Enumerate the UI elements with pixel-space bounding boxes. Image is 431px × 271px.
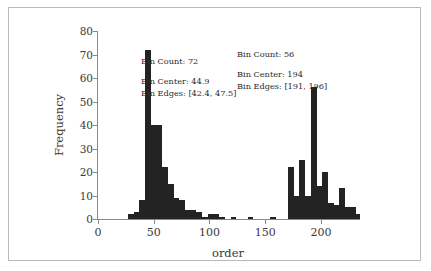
annotation-left-spacer	[141, 68, 236, 76]
x-tick-label: 100	[199, 226, 220, 239]
y-tick-label: 20	[80, 166, 93, 178]
histogram-bar	[356, 214, 360, 219]
y-tick-label: 30	[80, 143, 93, 155]
x-tick-label: 200	[310, 226, 331, 239]
x-tick-label: 50	[147, 226, 161, 239]
x-tick-label: 0	[95, 226, 102, 239]
figure-border: Frequency order 01020304050607080 050100…	[8, 7, 421, 261]
histogram-bar	[248, 217, 254, 219]
plot-wrapper: Frequency order 01020304050607080 050100…	[9, 8, 422, 262]
y-tick-mark	[93, 125, 98, 126]
y-tick-mark	[93, 149, 98, 150]
x-tick-mark	[154, 219, 155, 224]
y-tick-mark	[93, 31, 98, 32]
annotation-right: Bin Count: 56 Bin Center: 194 Bin Edges:…	[237, 49, 327, 93]
x-tick-label: 150	[255, 226, 276, 239]
x-tick-mark	[98, 219, 99, 224]
annotation-right-count: Bin Count: 56	[237, 49, 294, 59]
y-tick-label: 40	[80, 119, 93, 131]
histogram-bar	[305, 196, 311, 220]
y-tick-label: 70	[80, 49, 93, 61]
y-tick-label: 50	[80, 96, 93, 108]
annotation-left-count: Bin Count: 72	[141, 56, 198, 66]
y-tick-mark	[93, 78, 98, 79]
histogram-bar	[219, 217, 225, 219]
y-tick-mark	[93, 102, 98, 103]
x-tick-mark	[265, 219, 266, 224]
y-tick-label: 10	[80, 190, 93, 202]
histogram-bar	[270, 217, 276, 219]
annotation-right-center: Bin Center: 194	[237, 69, 303, 79]
y-tick-label: 0	[86, 213, 93, 225]
y-tick-label: 60	[80, 72, 93, 84]
y-tick-mark	[93, 172, 98, 173]
x-axis-label: order	[97, 246, 359, 260]
annotation-right-spacer	[237, 61, 327, 69]
y-tick-mark	[93, 196, 98, 197]
annotation-left-center: Bin Center: 44.9	[141, 76, 210, 86]
histogram-bar	[231, 217, 237, 219]
x-tick-mark	[209, 219, 210, 224]
y-axis-label: Frequency	[52, 94, 66, 156]
y-tick-label: 80	[80, 25, 93, 37]
annotation-left: Bin Count: 72 Bin Center: 44.9 Bin Edges…	[141, 56, 236, 100]
x-tick-mark	[321, 219, 322, 224]
annotation-left-edges: Bin Edges: [42.4, 47.5]	[141, 88, 236, 98]
y-tick-mark	[93, 55, 98, 56]
annotation-right-edges: Bin Edges: [191, 196]	[237, 81, 327, 91]
